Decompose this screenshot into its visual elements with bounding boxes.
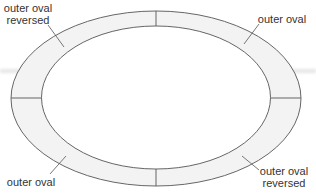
label-bottom-right-line2: reversed — [263, 177, 306, 189]
label-bottom-right-line1: outer oval — [260, 165, 308, 177]
label-top-left-line1: outer oval — [4, 2, 52, 14]
label-top-left-line2: reversed — [7, 14, 50, 26]
label-bottom-left: outer oval — [7, 176, 55, 188]
inner-oval — [42, 26, 271, 169]
label-top-right: outer oval — [258, 13, 306, 25]
oval-ring-diagram: outer oval reversed outer oval outer ova… — [0, 0, 316, 196]
